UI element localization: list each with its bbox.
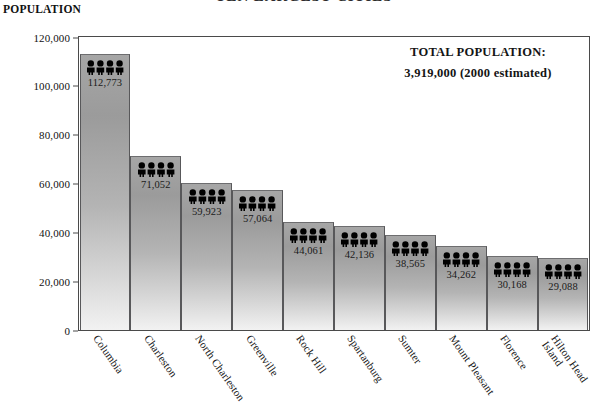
- x-axis-category-label: Hilton HeadIsland: [540, 333, 590, 391]
- bar: 34,262: [436, 246, 487, 330]
- y-axis-tick-label: 60,000: [39, 178, 70, 190]
- person-icon: [284, 228, 333, 243]
- y-axis-tick-label: 80,000: [39, 129, 70, 141]
- x-axis-category-label: Spartanburg: [345, 333, 386, 384]
- person-icon: [386, 241, 435, 256]
- y-axis-tick-label: 0: [64, 325, 70, 337]
- bar-value-label: 29,088: [539, 281, 588, 292]
- y-axis-tick-mark: [73, 282, 78, 283]
- y-axis-tick-mark: [73, 233, 78, 234]
- chart-title: TEN LARGEST CITIES: [0, 0, 608, 5]
- bar-value-label: 42,136: [335, 249, 384, 260]
- y-axis-caption: POPULATION: [3, 3, 81, 15]
- bar: 44,061: [283, 222, 334, 330]
- total-population-value: 3,919,000 (2000 estimated): [372, 63, 584, 84]
- y-axis-tick-mark: [73, 86, 78, 87]
- bar-value-label: 38,565: [386, 258, 435, 269]
- person-icon: [131, 162, 180, 177]
- bar: 30,168: [487, 256, 538, 330]
- bar-value-label: 34,262: [437, 269, 486, 280]
- total-population-callout: TOTAL POPULATION: 3,919,000 (2000 estima…: [372, 42, 584, 83]
- x-axis-category-label: Sumter: [396, 333, 424, 366]
- person-icon: [233, 196, 282, 211]
- bar-value-label: 57,064: [233, 213, 282, 224]
- y-axis-tick-mark: [73, 184, 78, 185]
- bar: 42,136: [334, 226, 385, 329]
- bar-value-label: 59,923: [182, 206, 231, 217]
- x-axis-category-label: Greenville: [243, 333, 279, 378]
- bar-value-label: 44,061: [284, 245, 333, 256]
- bar: 59,923: [181, 183, 232, 330]
- y-axis-tick-mark: [73, 135, 78, 136]
- bar: 57,064: [232, 190, 283, 330]
- bar-value-label: 71,052: [131, 179, 180, 190]
- person-icon: [488, 262, 537, 277]
- bar: 112,773: [80, 54, 131, 330]
- bar-value-label: 30,168: [488, 279, 537, 290]
- y-axis-tick-mark: [73, 37, 78, 38]
- x-axis-labels: ColumbiaCharlestonNorth CharlestonGreenv…: [80, 333, 589, 412]
- total-population-label: TOTAL POPULATION:: [372, 42, 584, 63]
- person-icon: [539, 264, 588, 279]
- y-axis-tick-label: 100,000: [33, 80, 70, 92]
- y-axis-tick-label: 20,000: [39, 276, 70, 288]
- bar: 29,088: [538, 258, 589, 329]
- y-axis: 020,00040,00060,00080,000100,000120,000: [0, 36, 78, 331]
- x-axis-category-label: Florence: [498, 333, 530, 372]
- x-axis-category-label: Mount Pleasant: [447, 333, 497, 397]
- x-axis-category-label: Rock Hill: [294, 333, 328, 376]
- x-axis-category-label: North Charleston: [192, 333, 246, 403]
- y-axis-tick-label: 40,000: [39, 227, 70, 239]
- bar-value-label: 112,773: [81, 77, 130, 88]
- y-axis-tick-label: 120,000: [33, 32, 70, 44]
- x-axis-category-label: Charleston: [142, 333, 179, 379]
- person-icon: [335, 232, 384, 247]
- person-icon: [182, 189, 231, 204]
- person-icon: [437, 252, 486, 267]
- bar: 71,052: [130, 156, 181, 330]
- person-icon: [81, 60, 130, 75]
- y-axis-tick-mark: [73, 331, 78, 332]
- bar: 38,565: [385, 235, 436, 329]
- x-axis-category-label: Columbia: [91, 333, 126, 376]
